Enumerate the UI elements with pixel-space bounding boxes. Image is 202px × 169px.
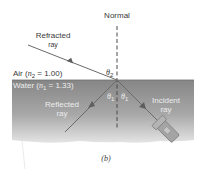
- refracted-label-line2: ray: [33, 40, 73, 49]
- scan-artifact: [22, 140, 25, 169]
- theta2-label: θ2: [106, 68, 113, 80]
- theta1-right-subscript: 1: [125, 96, 128, 102]
- normal-label: Normal: [101, 11, 133, 20]
- reflected-label-line1: Reflected: [42, 100, 82, 109]
- air-n-subscript: 2: [32, 73, 35, 79]
- reflected-label-line2: ray: [42, 109, 82, 118]
- water-index-label: Water (n1 = 1.33): [13, 81, 74, 93]
- air-medium: Air: [13, 69, 23, 78]
- incident-ray-label: Incident ray: [146, 96, 186, 114]
- theta1-left-label: θ1: [107, 92, 114, 104]
- figure-caption: (b): [96, 154, 116, 163]
- water-medium: Water: [13, 81, 34, 90]
- air-index-label: Air (n2 = 1.00): [13, 69, 62, 81]
- theta1-right-label: θ1: [121, 92, 128, 104]
- reflected-ray-label: Reflected ray: [42, 100, 82, 118]
- incident-label-line2: ray: [146, 105, 186, 114]
- air-index-value: = 1.00: [37, 69, 59, 78]
- incident-label-line1: Incident: [146, 96, 186, 105]
- theta2-subscript: 2: [110, 72, 113, 78]
- refraction-diagram: Normal Refracted ray Air (n2 = 1.00) Wat…: [0, 0, 202, 169]
- refracted-ray-label: Refracted ray: [33, 31, 73, 49]
- refracted-label-line1: Refracted: [33, 31, 73, 40]
- theta1-left-subscript: 1: [111, 96, 114, 102]
- water-index-value: = 1.33: [49, 81, 71, 90]
- water-n-subscript: 1: [43, 85, 46, 91]
